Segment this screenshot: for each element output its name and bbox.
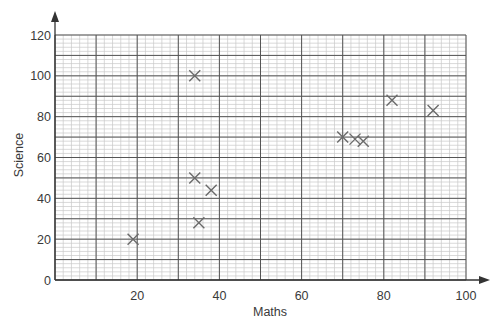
y-tick-label: 40 — [37, 192, 51, 206]
y-axis-title: Science — [12, 133, 26, 178]
y-tick-label: 60 — [37, 151, 51, 165]
x-axis-arrow-icon — [479, 276, 490, 284]
x-axis-title: Maths — [253, 305, 287, 319]
y-tick-label: 80 — [37, 110, 51, 124]
y-axis-arrow-icon — [51, 11, 59, 22]
x-tick-label: 40 — [212, 289, 226, 303]
y-tick-labels: 020406080100120 — [30, 29, 51, 288]
scatter-chart: 20406080100 020406080100120 Maths Scienc… — [0, 0, 503, 333]
x-tick-label: 100 — [456, 289, 477, 303]
x-tick-label: 20 — [130, 289, 144, 303]
y-tick-label: 20 — [37, 233, 51, 247]
x-tick-label: 80 — [377, 289, 391, 303]
y-tick-label: 0 — [44, 274, 51, 288]
x-tick-labels: 20406080100 — [130, 289, 476, 303]
y-tick-label: 100 — [30, 69, 51, 83]
y-tick-label: 120 — [30, 29, 51, 43]
x-tick-label: 60 — [295, 289, 309, 303]
